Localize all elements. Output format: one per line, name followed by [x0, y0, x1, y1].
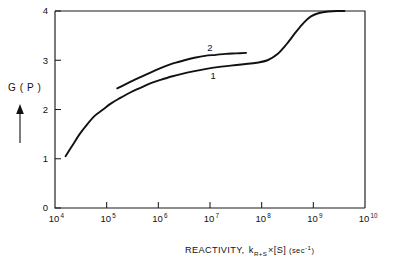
curve-label-1: 1	[210, 70, 215, 81]
svg-text:10: 10	[204, 213, 215, 224]
y-tick-label-0: 0	[43, 202, 48, 213]
x-tick-label-10000000000: 1010	[359, 212, 378, 224]
svg-text:6: 6	[164, 212, 168, 219]
data-curve-2	[117, 53, 246, 88]
data-curve-1	[66, 11, 345, 156]
x-tick-label-100000000: 108	[255, 212, 271, 224]
svg-text:10: 10	[255, 213, 266, 224]
x-tick-label-10000000: 107	[204, 212, 220, 224]
up-arrow-icon	[16, 104, 24, 143]
x-tick-label-10000: 104	[49, 212, 65, 224]
svg-text:10: 10	[307, 213, 318, 224]
svg-text:10: 10	[152, 213, 163, 224]
svg-text:4: 4	[61, 212, 65, 219]
x-tick-label-1000000: 106	[152, 212, 168, 224]
data-curves-group	[66, 11, 345, 156]
svg-text:9: 9	[319, 212, 323, 219]
y-tick-label-2: 2	[43, 104, 48, 115]
y-tick-label-3: 3	[43, 55, 48, 66]
y-tick-label-1: 1	[43, 153, 48, 164]
svg-text:10: 10	[359, 213, 370, 224]
figure-container: 012341041051061071081091010 21 G ( P ) R…	[0, 0, 393, 270]
y-axis-label: G ( P )	[8, 82, 41, 93]
tick-labels-group: 012341041051061071081091010	[43, 5, 378, 224]
svg-text:8: 8	[267, 212, 271, 219]
curve-label-2: 2	[207, 42, 212, 53]
ticks-group	[55, 11, 313, 208]
curve-labels-group: 21	[207, 42, 215, 81]
chart-canvas: 012341041051061071081091010 21 G ( P ) R…	[0, 0, 393, 270]
y-axis-label-group: G ( P )	[8, 82, 41, 143]
svg-text:10: 10	[100, 213, 111, 224]
svg-text:7: 7	[216, 212, 220, 219]
svg-text:10: 10	[49, 213, 60, 224]
svg-text:10: 10	[371, 212, 379, 219]
x-tick-label-100000: 105	[100, 212, 116, 224]
svg-text:5: 5	[112, 212, 116, 219]
y-tick-label-4: 4	[43, 5, 48, 16]
x-axis-label-group: REACTIVITY, kR+S×[S](sec-1)	[185, 244, 314, 256]
x-tick-label-1000000000: 109	[307, 212, 323, 224]
x-axis-label: REACTIVITY, kR+S×[S](sec-1)	[185, 244, 314, 256]
